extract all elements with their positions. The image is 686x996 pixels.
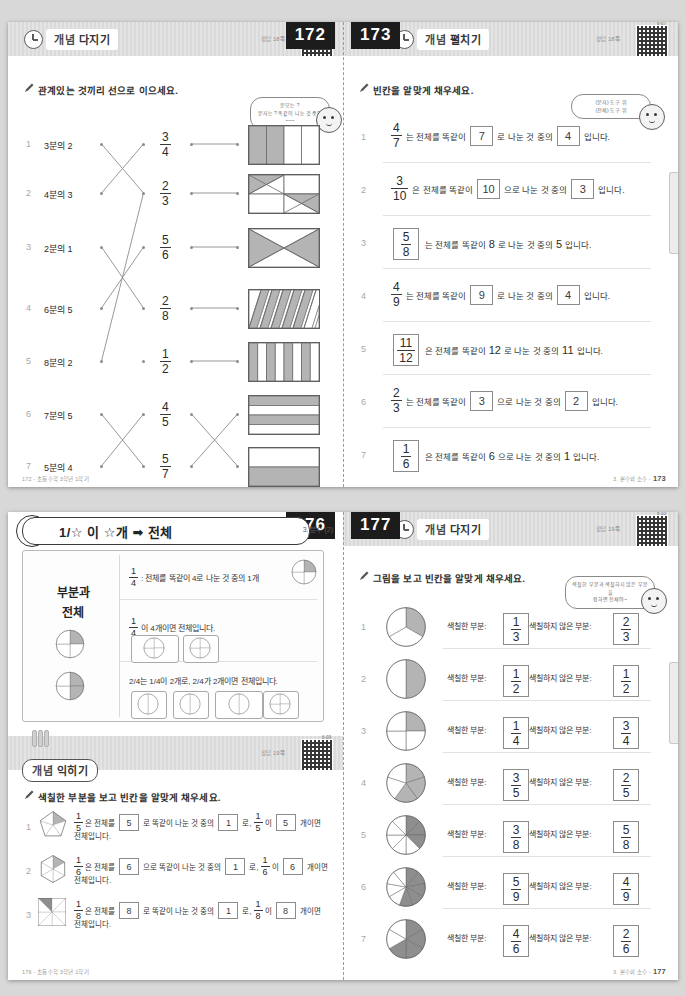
pie-diagram	[137, 693, 159, 715]
answer-box-fraction[interactable]: 1112	[393, 334, 419, 366]
connector-dot-mid-left[interactable]	[142, 307, 145, 310]
answer-box-shaded[interactable]: 59	[503, 873, 529, 905]
shaded-label: 색칠한 부분:	[447, 932, 486, 943]
answer-box-unshaded[interactable]: 25	[613, 769, 639, 801]
answer-box-3[interactable]: 5	[276, 814, 296, 831]
answer-box-denominator[interactable]: 7	[470, 126, 493, 146]
connector-dot-mid-right[interactable]	[190, 307, 193, 310]
answer-box-numerator[interactable]: 3	[571, 179, 594, 199]
answer-box-unshaded[interactable]: 58	[613, 821, 639, 853]
item-label: 6분의 5	[44, 303, 73, 316]
connector-dot-right[interactable]	[236, 246, 239, 249]
question-number: 4	[361, 778, 366, 788]
connector-dot-left[interactable]	[100, 465, 103, 468]
item-label: 7분의 5	[44, 409, 73, 422]
page-number-177: 177	[351, 512, 400, 539]
fraction-4-over-9: 49	[391, 281, 402, 308]
answer-box-fraction[interactable]: 16	[393, 440, 419, 472]
connector-dot-left[interactable]	[100, 192, 103, 195]
connector-dot-left[interactable]	[100, 307, 103, 310]
connector-dot-mid-right[interactable]	[190, 143, 193, 146]
pie-diagram	[385, 658, 427, 700]
row-separator	[443, 908, 651, 909]
footer-173: 3. 분수와 소수 - 173	[613, 474, 666, 483]
page-177: 개념 다지기 정답 19쪽 6-10 177 그림을 보고 빈칸을 알맞게 채우…	[343, 512, 678, 980]
practice-title-part1: 개념	[32, 765, 53, 777]
fraction-numerator: 1	[511, 616, 522, 629]
pie-diagram	[385, 814, 427, 856]
connector-dot-mid-left[interactable]	[142, 246, 145, 249]
connector-dot-mid-left[interactable]	[142, 143, 145, 146]
answer-box-fraction[interactable]: 58	[393, 228, 419, 260]
answer-box-3[interactable]: 8	[276, 902, 296, 919]
text-segment-1: 은 전체를 똑같이	[412, 183, 473, 195]
fraction-1-over-2: 12	[621, 668, 632, 695]
fraction-option: 56	[160, 234, 171, 261]
connector-dot-left[interactable]	[100, 360, 103, 363]
qr-code[interactable]	[636, 515, 668, 547]
answer-box-3[interactable]: 6	[283, 858, 303, 875]
answer-box-1[interactable]: 6	[119, 858, 139, 875]
answer-box-unshaded[interactable]: 49	[613, 873, 639, 905]
fraction-denominator: 12	[397, 350, 414, 364]
connector-dot-mid-right[interactable]	[190, 413, 193, 416]
answer-box-shaded[interactable]: 35	[503, 769, 529, 801]
item-label: 3분의 2	[44, 139, 73, 152]
answer-box-shaded[interactable]: 14	[503, 717, 529, 749]
answer-box-numerator[interactable]: 2	[565, 391, 588, 411]
connector-dot-mid-left[interactable]	[142, 192, 145, 195]
answer-box-1[interactable]: 8	[119, 902, 139, 919]
connector-dot-right[interactable]	[236, 465, 239, 468]
answer-box-numerator[interactable]: 4	[557, 285, 580, 305]
answer-box-unshaded[interactable]: 26	[613, 925, 639, 957]
qr-code[interactable]	[636, 25, 668, 57]
connector-dot-right[interactable]	[236, 360, 239, 363]
connector-dot-right[interactable]	[236, 192, 239, 195]
connector-dot-right[interactable]	[236, 307, 239, 310]
connector-dot-mid-right[interactable]	[190, 246, 193, 249]
connector-dot-mid-right[interactable]	[190, 360, 193, 363]
connector-dot-left[interactable]	[100, 143, 103, 146]
fraction-denominator: 2	[621, 681, 632, 695]
page-176: 176 개념 쏙쏙 1/☆ 이 ☆개 ➡ 전체 3. 분수 (2) 부분과 전체…	[8, 512, 343, 980]
fraction-denominator: 9	[621, 889, 632, 903]
answer-box-2[interactable]: 1	[218, 902, 238, 919]
answer-box-unshaded[interactable]: 12	[613, 665, 639, 697]
row-separator	[383, 162, 651, 163]
fraction-1-over-4: 14	[511, 720, 522, 747]
connector-dot-right[interactable]	[236, 413, 239, 416]
connector-dot-mid-left[interactable]	[142, 413, 145, 416]
unshaded-label: 색칠하지 않은 부분:	[529, 932, 592, 943]
connector-dot-left[interactable]	[100, 246, 103, 249]
answer-box-2[interactable]: 1	[225, 858, 245, 875]
fraction-numerator: 2	[621, 616, 632, 629]
answer-box-denominator[interactable]: 3	[470, 391, 493, 411]
connector-dot-mid-left[interactable]	[142, 465, 145, 468]
answer-box-numerator[interactable]: 4	[557, 126, 580, 146]
answer-box-denominator[interactable]: 9	[470, 285, 493, 305]
connector-dot-right[interactable]	[236, 143, 239, 146]
connector-dot-left[interactable]	[100, 413, 103, 416]
answer-box-2[interactable]: 1	[218, 814, 238, 831]
question-number: 7	[361, 934, 366, 944]
text-segment-2: 로 똑같이 나눈 것 중의	[143, 905, 214, 916]
connector-dot-mid-right[interactable]	[190, 192, 193, 195]
answer-box-shaded[interactable]: 46	[503, 925, 529, 957]
qr-code[interactable]	[301, 739, 333, 771]
fraction-numerator: 1	[74, 900, 83, 910]
answer-box-1[interactable]: 5	[119, 814, 139, 831]
shaded-label: 색칠한 부분:	[447, 828, 486, 839]
answer-box-denominator[interactable]: 10	[477, 179, 500, 199]
pie-diagram	[179, 693, 201, 715]
connector-dot-mid-left[interactable]	[142, 360, 145, 363]
answer-box-shaded[interactable]: 38	[503, 821, 529, 853]
answer-box-shaded[interactable]: 13	[503, 613, 529, 645]
answer-box-shaded[interactable]: 12	[503, 665, 529, 697]
text-segment-5: 개이면	[307, 861, 328, 872]
row-separator	[383, 268, 651, 269]
connector-dot-mid-right[interactable]	[190, 465, 193, 468]
answer-box-unshaded[interactable]: 34	[613, 717, 639, 749]
answer-box-unshaded[interactable]: 23	[613, 613, 639, 645]
fraction-denominator: 5	[254, 822, 263, 833]
shaded-pie-diagram	[385, 710, 427, 756]
